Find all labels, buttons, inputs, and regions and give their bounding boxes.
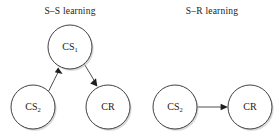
node-cr[interactable]: CR xyxy=(86,85,132,131)
node-cr-right-label-text: CR xyxy=(243,101,257,112)
learning-diagram-figure: S–S learning CS1 CS2 xyxy=(0,0,280,140)
node-cs2-right-label-text: CS xyxy=(167,101,179,112)
node-cs1[interactable]: CS1 xyxy=(48,25,94,71)
edge-cs2-to-cr-arrowhead xyxy=(221,104,228,110)
edge-cs2-to-cr xyxy=(198,104,229,110)
node-cr-right[interactable]: CR xyxy=(228,85,274,131)
panel-s-r-learning: S–R learning CS2 CR xyxy=(153,6,274,131)
node-cr-label: CR xyxy=(101,101,115,112)
node-cs1-label-text: CS xyxy=(62,41,74,52)
edge-cs2-to-cs1 xyxy=(49,67,63,91)
node-cs2-right-label-subscript: 2 xyxy=(179,106,182,113)
node-cr-label-text: CR xyxy=(101,101,115,112)
node-cs2-right[interactable]: CS2 xyxy=(153,85,199,131)
node-cr-right-label: CR xyxy=(243,101,257,112)
panel-s-s-learning: S–S learning CS1 CS2 xyxy=(11,6,132,131)
node-cs2[interactable]: CS2 xyxy=(11,85,57,131)
panel-title-s-r-learning: S–R learning xyxy=(186,6,238,16)
node-cs2-label-subscript: 2 xyxy=(37,106,40,113)
edge-cs2-to-cs1-arrowhead xyxy=(55,67,63,74)
edge-cs2-to-cs1-line xyxy=(49,71,60,92)
edge-cs1-to-cr xyxy=(85,65,98,87)
node-cs1-label-subscript: 1 xyxy=(74,46,77,53)
panel-title-s-s-learning: S–S learning xyxy=(44,6,95,16)
node-cs2-label-text: CS xyxy=(25,101,37,112)
